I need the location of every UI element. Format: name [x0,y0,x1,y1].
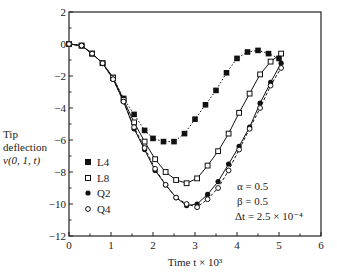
legend-label-l4: L4 [97,156,110,168]
data-point-l4 [131,112,137,118]
data-point-q2 [216,179,221,184]
data-point-l8 [163,170,168,175]
data-point-l4 [203,102,209,108]
data-point-l8 [258,72,263,77]
data-point-l4 [224,70,230,76]
legend: L4 L8 Q2 Q4 [85,156,111,215]
x-tick-label: 4 [234,239,240,251]
data-point-l8 [132,120,137,125]
data-point-q4 [195,205,200,210]
y-axis-label-line2: deflection [3,141,47,153]
data-point-l4 [245,49,251,55]
x-tick-label: 1 [108,239,114,251]
legend-label-l8: L8 [97,172,110,184]
data-point-l8 [184,181,189,186]
data-point-l8 [142,139,147,144]
data-point-l8 [216,149,221,154]
data-point-l8 [195,176,200,181]
data-point-q4 [121,99,126,104]
y-tick-label: −6 [54,134,66,146]
deflection-chart: 20−2−4−6−8−10−120123456 Tip deflection v… [0,0,337,272]
data-point-q4 [132,125,137,130]
data-point-q4 [258,106,263,111]
x-tick-label: 5 [276,239,282,251]
data-point-l8 [247,91,252,96]
data-point-l4 [171,139,177,145]
data-point-q4 [247,126,252,131]
x-tick-label: 2 [150,239,156,251]
y-tick-label: −10 [49,198,67,210]
data-point-q4 [279,66,284,71]
data-point-q2 [279,61,284,66]
data-point-q4 [268,83,273,88]
x-tick-label: 6 [318,239,324,251]
data-point-l4 [150,136,156,142]
x-axis-label: Time t × 10³ [168,256,223,268]
data-point-q4 [216,186,221,191]
data-point-l4 [234,56,240,62]
annotation-beta: β = 0.5 [237,195,269,207]
data-point-q4 [90,51,95,56]
y-tick-label: −4 [54,102,66,114]
data-point-l4 [142,128,148,134]
legend-label-q4: Q4 [97,203,111,215]
data-point-q4 [237,147,242,152]
data-point-q4 [67,42,72,47]
data-point-q2 [226,161,231,166]
y-tick-label: 2 [61,6,67,18]
y-tick-label: −2 [54,70,66,82]
data-point-l8 [174,178,179,183]
y-axis-label-line3: v(0, 1, t) [3,154,41,167]
data-point-l8 [153,157,158,162]
x-tick-label: 0 [66,239,72,251]
annotation-alpha: α = 0.5 [237,180,269,192]
data-point-q4 [163,182,168,187]
legend-marker-q4 [86,207,91,212]
y-tick-label: −12 [49,230,66,242]
data-point-q4 [174,195,179,200]
legend-marker-l8 [86,176,91,181]
y-axis-label-line1: Tip [3,128,18,140]
data-point-l4 [255,48,261,54]
data-point-l4 [192,116,198,122]
data-point-l8 [279,51,284,56]
data-point-q4 [142,146,147,151]
legend-label-q2: Q2 [97,187,110,199]
data-point-q4 [100,61,105,66]
data-point-q4 [111,77,116,82]
data-point-l4 [266,51,272,57]
x-tick-label: 3 [192,239,198,251]
data-point-l4 [161,139,167,145]
data-point-q4 [79,43,84,48]
data-point-q2 [258,101,263,106]
y-tick-label: 0 [61,38,67,50]
data-point-l8 [205,163,210,168]
legend-marker-q2 [85,190,90,195]
data-point-l4 [213,88,219,94]
data-point-q4 [153,166,158,171]
annotation-dt: Δt = 2.5 × 10⁻⁴ [235,210,303,222]
data-point-q2 [205,192,210,197]
legend-marker-l4 [85,159,91,165]
data-point-l4 [182,131,188,137]
data-point-q4 [184,202,189,207]
data-point-l8 [226,131,231,136]
data-point-q4 [205,197,210,202]
y-tick-label: −8 [54,166,66,178]
data-point-l8 [237,110,242,115]
data-point-q4 [226,168,231,173]
data-point-l8 [268,59,273,64]
